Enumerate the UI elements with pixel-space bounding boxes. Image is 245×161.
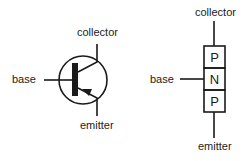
structure-base-label: base xyxy=(150,73,174,85)
symbol-base-label: base xyxy=(12,73,36,85)
base-bar xyxy=(72,63,78,96)
structure-emitter-label: emitter xyxy=(198,140,232,152)
transistor-diagram: collector base emitter collector base em… xyxy=(0,0,245,161)
layer-p-bottom-label: P xyxy=(210,94,219,109)
layer-n-label: N xyxy=(210,72,219,87)
pnp-structure: collector base emitter P N P xyxy=(150,6,236,152)
transistor-symbol: collector base emitter xyxy=(12,26,118,131)
symbol-emitter-label: emitter xyxy=(80,119,114,131)
symbol-collector-label: collector xyxy=(77,26,118,38)
layer-p-top-label: P xyxy=(210,50,219,65)
structure-collector-label: collector xyxy=(195,6,236,18)
